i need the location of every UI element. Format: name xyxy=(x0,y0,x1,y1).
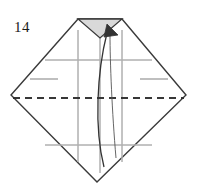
diagram-page: 14 xyxy=(0,0,198,189)
step-number-label: 14 xyxy=(14,20,30,35)
